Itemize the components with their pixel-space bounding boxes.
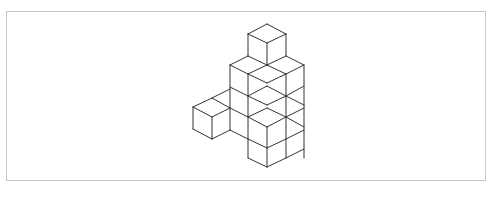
cube-edge xyxy=(267,65,286,74)
cube-edge xyxy=(267,24,286,34)
cube-edge xyxy=(230,87,248,96)
isometric-cubes-drawing xyxy=(0,0,491,198)
cube-edge xyxy=(267,158,286,167)
cube-edge xyxy=(248,158,267,167)
cube-edge xyxy=(286,56,304,65)
cube-edge xyxy=(248,65,267,74)
cube-edge xyxy=(267,96,286,105)
cube-edge xyxy=(248,108,267,117)
cube-edge xyxy=(267,34,286,43)
cube-edge xyxy=(193,98,212,107)
cube-edge xyxy=(267,139,286,148)
cube-edge xyxy=(248,56,267,65)
cube-edge xyxy=(248,139,267,148)
cube-edge xyxy=(267,117,286,127)
cube-edge xyxy=(212,130,230,139)
cube-edge xyxy=(230,108,248,117)
cube-edge xyxy=(248,74,267,83)
cube-edge xyxy=(193,107,212,117)
cube-edge xyxy=(212,89,230,98)
cube-edge xyxy=(248,86,267,96)
cube-edge xyxy=(212,108,230,117)
cube-edge xyxy=(286,130,304,139)
cube-edge xyxy=(230,130,248,139)
cube-edge xyxy=(248,24,267,34)
cube-edge xyxy=(286,108,304,117)
cube-edge xyxy=(248,34,267,43)
cube-edge xyxy=(248,96,267,105)
cube-edge xyxy=(267,86,286,96)
cube-edge xyxy=(286,86,304,96)
cube-edge xyxy=(230,65,248,74)
cube-edge xyxy=(267,56,286,65)
cube-edge xyxy=(267,74,286,83)
cube-edge xyxy=(212,98,230,108)
cube-edge xyxy=(230,56,248,65)
cube-edge xyxy=(286,117,304,127)
cube-edge xyxy=(248,117,267,127)
cube-edge xyxy=(286,65,304,74)
cube-edge xyxy=(286,96,304,105)
cube-edge xyxy=(193,129,212,139)
cube-edge xyxy=(267,108,286,117)
cube-edge xyxy=(286,149,304,158)
